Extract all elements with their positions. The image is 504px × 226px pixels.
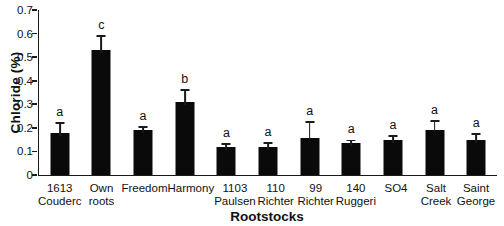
significance-letter: a [265,126,272,138]
error-bar-cap [180,89,189,91]
error-bar-cap [222,143,231,145]
x-category-label-line: roots [81,195,121,208]
x-category-label: 99Richter [296,182,336,208]
significance-letter: c [98,19,104,31]
y-tick-mark [32,151,37,153]
y-tick-mark [32,9,37,11]
significance-letter: b [181,73,188,85]
x-category-label-line: SO4 [376,182,416,195]
bar [134,130,153,175]
x-category-label-line: Creek [416,195,456,208]
x-category-label-line: Salt [416,182,456,195]
x-category-label: 110Richter [256,182,296,208]
error-bar-cap [264,142,273,144]
bar-chart-figure: Chloride (%) acabaaaaaaa 00.10.20.30.40.… [0,0,504,226]
error-bar-cap [97,35,106,37]
bar-column: a [122,10,164,175]
significance-letter: a [431,104,438,116]
significance-letter: a [223,127,230,139]
error-bar-cap [305,121,314,123]
significance-letter: a [473,117,480,129]
bar-column: b [164,10,206,175]
bar-column: a [39,10,81,175]
x-category-label: 1613Couderc [38,182,81,208]
x-category-labels: 1613CoudercOwnrootsFreedomHarmony1103Pau… [38,182,496,208]
x-category-label-line: 99 [296,182,336,195]
bar [175,102,194,175]
y-tick-mark [32,127,37,129]
bar-column: a [414,10,456,175]
y-tick-label: 0.3 [2,97,33,111]
x-category-label: 1103Paulsen [214,182,256,208]
x-category-label-line: 110 [256,182,296,195]
y-tick-mark [32,103,37,105]
error-bar-line [101,36,103,53]
x-axis-title: Rootstocks [38,209,496,224]
x-category-label-line: Own [81,182,121,195]
y-tick-mark [32,33,37,35]
error-bar-line [434,121,436,133]
error-bar-cap [388,135,397,137]
x-category-label: 140Ruggeri [336,182,376,208]
bar [342,143,361,175]
significance-letter: a [56,106,63,118]
x-category-label: Harmony [168,182,215,208]
x-category-label-line: 1103 [214,182,256,195]
bar-column: a [330,10,372,175]
x-category-label-line: George [456,195,496,208]
x-category-label-line: 1613 [38,182,81,195]
bar-column: a [372,10,414,175]
significance-letter: a [140,110,147,122]
error-bar-cap [472,133,481,135]
error-bar-cap [430,120,439,122]
x-category-label: SO4 [376,182,416,208]
y-tick-label: 0.4 [2,74,33,88]
x-category-label-line: Ruggeri [336,195,376,208]
x-category-label: Ownroots [81,182,121,208]
x-category-label-line: Richter [296,195,336,208]
error-bar-line [59,123,61,135]
error-bar-line [184,90,186,105]
x-category-label: SaintGeorge [456,182,496,208]
x-category-label-line: Freedom [121,182,167,195]
error-bar-cap [347,140,356,142]
bar-column: a [289,10,331,175]
x-category-label-line: Saint [456,182,496,195]
bar [92,50,111,175]
y-tick-mark [32,80,37,82]
bar [300,138,319,175]
bar [217,147,236,175]
bar [50,133,69,175]
bar [259,147,278,175]
plot-area: acabaaaaaaa [38,10,497,176]
y-tick-label: 0.5 [2,50,33,64]
x-category-label-line: Richter [256,195,296,208]
bar-column: a [455,10,497,175]
bar [425,130,444,175]
y-tick-mark [32,56,37,58]
error-bar-cap [139,126,148,128]
x-category-label: Freedom [121,182,167,208]
significance-letter: a [348,123,355,135]
x-category-label-line: Paulsen [214,195,256,208]
x-category-label-line: 140 [336,182,376,195]
x-category-label: SaltCreek [416,182,456,208]
y-tick-label: 0.6 [2,27,33,41]
x-category-label-line: Harmony [168,182,215,195]
significance-letter: a [389,119,396,131]
y-tick-mark [32,174,37,176]
bar [467,140,486,175]
significance-letter: a [306,105,313,117]
error-bar-cap [55,122,64,124]
y-tick-label: 0.2 [2,121,33,135]
bar [383,140,402,175]
error-bar-line [267,143,269,150]
bar-column: a [247,10,289,175]
x-category-label-line: Couderc [38,195,81,208]
y-tick-label: 0.1 [2,144,33,158]
error-bar-line [475,134,477,143]
bar-column: c [81,10,123,175]
y-tick-label: 0 [2,168,33,182]
y-tick-label: 0.7 [2,3,33,17]
bar-column: a [206,10,248,175]
